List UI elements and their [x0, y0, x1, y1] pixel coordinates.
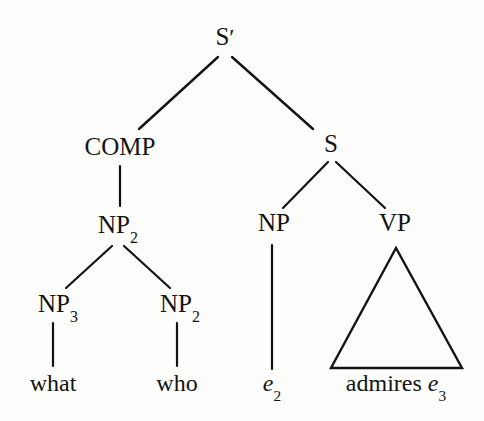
node-label-text: COMP — [85, 133, 156, 160]
syntax-tree-canvas: S′COMPSNP2NPVPNP3NP2whatwhoe2admires e3 — [0, 0, 484, 421]
vp-triangle — [331, 248, 462, 368]
node-subscript: 2 — [192, 308, 200, 325]
node-label-text: S — [215, 23, 229, 50]
tree-node-np: NP — [258, 209, 290, 236]
tree-node-np2b: NP2 — [160, 290, 200, 325]
tree-node-comp: COMP — [85, 133, 156, 160]
tree-branch-s-np — [283, 162, 328, 208]
tree-branch-np2-np2b — [124, 246, 170, 288]
node-label-text: NP — [38, 290, 70, 317]
tree-node-adm: admires e3 — [346, 370, 447, 404]
tree-node-vp: VP — [379, 209, 411, 236]
node-tail-subscript: 3 — [438, 387, 446, 404]
tree-branch-np2-np3 — [66, 246, 112, 288]
node-tail-text: e — [428, 370, 439, 396]
tree-node-np2a: NP2 — [98, 211, 138, 246]
tree-node-e2: e2 — [263, 370, 281, 404]
node-label-text: e — [263, 370, 274, 396]
tree-node-what: what — [30, 370, 77, 396]
tree-node-np3: NP3 — [38, 290, 78, 325]
node-label-text: admires — [346, 370, 428, 396]
node-label-text: who — [156, 370, 197, 396]
triangle-layer — [331, 248, 462, 368]
node-prime-mark: ′ — [229, 24, 234, 50]
tree-branch-s-vp — [336, 162, 385, 208]
syntax-tree-figure: S′COMPSNP2NPVPNP3NP2whatwhoe2admires e3 — [0, 0, 484, 421]
tree-branch-sbar-comp — [139, 57, 218, 129]
node-subscript: 3 — [70, 308, 78, 325]
tree-branch-sbar-s — [232, 57, 313, 129]
tree-node-sbar: S′ — [215, 23, 234, 50]
node-label-text: S — [324, 130, 338, 157]
node-subscript: 2 — [273, 387, 281, 404]
node-subscript: 2 — [130, 229, 138, 246]
node-label-layer: S′COMPSNP2NPVPNP3NP2whatwhoe2admires e3 — [30, 23, 447, 404]
node-label-text: NP — [258, 209, 290, 236]
node-label-text: NP — [98, 211, 130, 238]
node-label-text: what — [30, 370, 77, 396]
node-label-text: NP — [160, 290, 192, 317]
node-label-text: VP — [379, 209, 411, 236]
tree-node-who: who — [156, 370, 197, 396]
tree-node-s: S — [324, 130, 338, 157]
